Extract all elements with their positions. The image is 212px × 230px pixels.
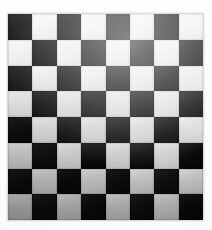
- board-square-light: [32, 169, 56, 195]
- board-square-light: [130, 66, 154, 92]
- board-square-light: [106, 143, 130, 169]
- board-square-dark: [106, 66, 130, 92]
- board-square-dark: [8, 14, 32, 40]
- board-square-light: [32, 117, 56, 143]
- board-square-dark: [179, 143, 203, 169]
- board-square-light: [154, 194, 178, 220]
- board-square-dark: [32, 40, 56, 66]
- board-square-light: [32, 66, 56, 92]
- board-square-dark: [106, 14, 130, 40]
- board-square-light: [57, 91, 81, 117]
- board-square-dark: [32, 194, 56, 220]
- board-square-dark: [8, 117, 32, 143]
- board-square-dark: [154, 14, 178, 40]
- board-square-light: [130, 14, 154, 40]
- board-square-light: [57, 194, 81, 220]
- board-square-dark: [106, 169, 130, 195]
- board-square-light: [81, 169, 105, 195]
- board-square-dark: [57, 14, 81, 40]
- board-square-dark: [81, 40, 105, 66]
- board-square-light: [8, 143, 32, 169]
- board-square-light: [130, 169, 154, 195]
- board-square-dark: [154, 66, 178, 92]
- board-square-dark: [179, 194, 203, 220]
- board-square-light: [81, 14, 105, 40]
- board-square-light: [179, 14, 203, 40]
- board-square-light: [179, 66, 203, 92]
- board-square-light: [8, 91, 32, 117]
- board-square-dark: [32, 143, 56, 169]
- board-square-light: [57, 40, 81, 66]
- board-square-dark: [81, 143, 105, 169]
- board-square-dark: [154, 169, 178, 195]
- board-square-light: [179, 117, 203, 143]
- board-square-light: [130, 117, 154, 143]
- board-square-dark: [179, 91, 203, 117]
- board-square-dark: [81, 91, 105, 117]
- board-square-light: [179, 169, 203, 195]
- board-square-light: [8, 194, 32, 220]
- board-square-dark: [130, 40, 154, 66]
- board-square-dark: [57, 117, 81, 143]
- board-square-dark: [130, 194, 154, 220]
- board-square-dark: [106, 117, 130, 143]
- board-square-dark: [8, 169, 32, 195]
- board-square-dark: [130, 143, 154, 169]
- board-square-dark: [81, 194, 105, 220]
- board-square-light: [8, 40, 32, 66]
- board-square-dark: [130, 91, 154, 117]
- board-square-dark: [8, 66, 32, 92]
- board-square-light: [154, 143, 178, 169]
- board-square-light: [154, 40, 178, 66]
- checkerboard-image: [0, 0, 212, 230]
- board-square-light: [106, 40, 130, 66]
- board-square-light: [32, 14, 56, 40]
- board-square-light: [154, 91, 178, 117]
- board-square-dark: [154, 117, 178, 143]
- board-square-light: [106, 194, 130, 220]
- board-square-light: [81, 117, 105, 143]
- board-square-light: [81, 66, 105, 92]
- checkerboard-grid: [8, 14, 203, 220]
- board-square-light: [57, 143, 81, 169]
- board-square-dark: [32, 91, 56, 117]
- board-square-dark: [57, 66, 81, 92]
- board-square-light: [106, 91, 130, 117]
- board-square-dark: [57, 169, 81, 195]
- board-square-dark: [179, 40, 203, 66]
